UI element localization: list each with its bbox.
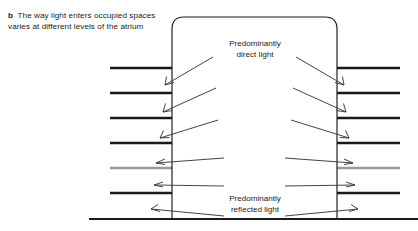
direct-light-line-2: direct light bbox=[185, 50, 325, 61]
reflected-light-line-2: reflected light bbox=[185, 205, 325, 216]
figure-caption-text: The way light enters occupied spaces var… bbox=[8, 11, 155, 31]
left-arrow-level-2 bbox=[163, 88, 216, 112]
left-arrow-level-3 bbox=[160, 120, 218, 138]
reflected-light-line-1: Predominantly bbox=[185, 194, 325, 205]
right-floor-slabs bbox=[337, 68, 400, 193]
figure-caption: b The way light enters occupied spaces v… bbox=[8, 10, 160, 33]
right-arrow-level-4 bbox=[285, 158, 353, 165]
figure-label: b bbox=[8, 11, 13, 20]
left-arrow-level-5 bbox=[154, 182, 224, 187]
direct-light-label: Predominantly direct light bbox=[185, 39, 325, 60]
direct-light-line-1: Predominantly bbox=[185, 39, 325, 50]
reflected-light-label: Predominantly reflected light bbox=[185, 194, 325, 215]
atrium-daylight-figure: b The way light enters occupied spaces v… bbox=[0, 0, 418, 231]
left-floor-slabs bbox=[110, 68, 172, 193]
left-arrow-level-4 bbox=[156, 158, 224, 165]
right-arrow-level-2 bbox=[293, 88, 346, 112]
right-arrow-level-3 bbox=[291, 120, 349, 138]
right-arrow-level-5 bbox=[285, 182, 355, 187]
